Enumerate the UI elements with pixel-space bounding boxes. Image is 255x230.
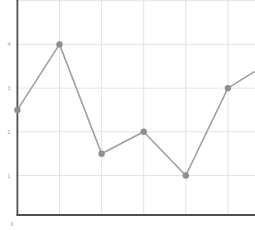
y-tick-label: 1 (8, 173, 11, 179)
data-point (141, 129, 147, 135)
data-point (98, 150, 104, 156)
data-point (225, 85, 231, 91)
y-tick-label: 3 (8, 85, 11, 91)
data-point (14, 107, 20, 113)
line-chart: 12340 (0, 0, 255, 230)
data-point (183, 172, 189, 178)
origin-tick-label: 0 (11, 221, 14, 227)
chart-container: 12340 (0, 0, 255, 230)
y-tick-label: 4 (8, 41, 11, 47)
series-line (17, 44, 254, 175)
y-tick-label: 2 (8, 129, 11, 135)
data-point (56, 41, 62, 47)
